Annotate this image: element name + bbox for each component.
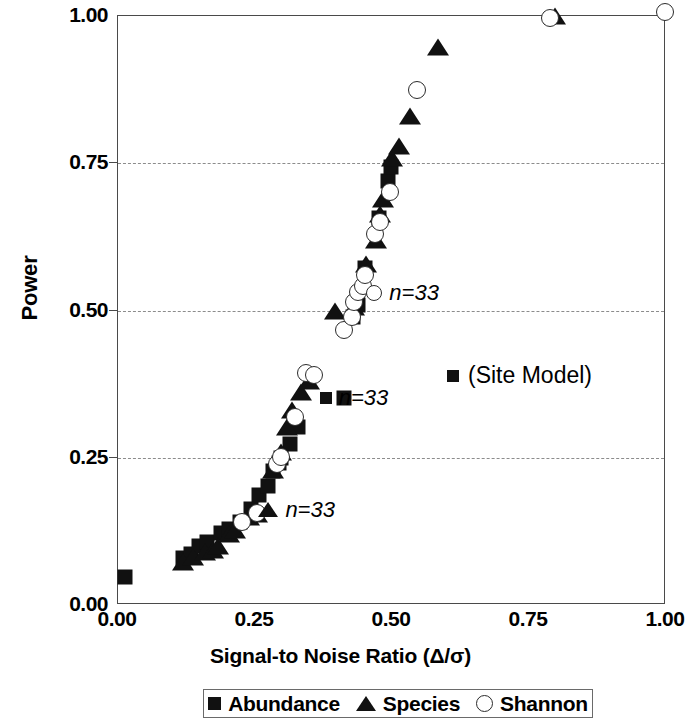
x-tick-label: 1.00 (610, 607, 689, 631)
square-marker-icon (320, 392, 332, 404)
legend: Abundance Species Shannon (203, 689, 593, 718)
x-tick-label: 0.00 (62, 607, 172, 631)
square-marker-icon (447, 370, 459, 382)
gridline-y (118, 311, 664, 312)
square-marker-icon (208, 697, 221, 710)
n-label-shannon: n=33 (366, 280, 439, 306)
y-tick-mark (109, 310, 117, 311)
data-point-species (399, 108, 421, 125)
site-model-annotation: (Site Model) (447, 362, 592, 389)
legend-label: Abundance (228, 692, 340, 716)
data-point-species (427, 39, 449, 56)
sample-size-label: n=33 (339, 385, 389, 411)
legend-label: Species (383, 692, 460, 716)
y-tick-label: 0.25 (40, 445, 108, 469)
gridline-y (118, 458, 664, 459)
data-point-shannon (541, 9, 559, 27)
legend-item-species[interactable]: Species (356, 692, 460, 716)
y-tick-mark (109, 457, 117, 458)
data-point-shannon (305, 366, 323, 384)
x-axis-title: Signal-to Noise Ratio (Δ/σ) (0, 644, 681, 668)
data-point-species (388, 137, 410, 154)
sample-size-label: n=33 (285, 497, 335, 523)
data-point-abundance (118, 570, 133, 585)
y-tick-label: 1.00 (40, 3, 108, 27)
circle-marker-icon (366, 285, 382, 301)
x-tick-label: 0.75 (473, 607, 583, 631)
data-point-shannon (381, 183, 399, 201)
data-point-shannon (656, 3, 674, 21)
site-model-text: (Site Model) (468, 362, 592, 389)
data-point-shannon (408, 81, 426, 99)
data-point-shannon (286, 408, 304, 426)
y-tick-label: 0.50 (40, 298, 108, 322)
n-label-species: n=33 (258, 497, 335, 523)
x-tick-label: 0.25 (199, 607, 309, 631)
data-point-shannon (272, 448, 290, 466)
y-tick-mark (109, 162, 117, 163)
y-tick-label: 0.75 (40, 150, 108, 174)
n-label-abundance: n=33 (320, 385, 389, 411)
data-point-shannon (371, 213, 389, 231)
legend-item-shannon[interactable]: Shannon (476, 692, 588, 716)
triangle-marker-icon (356, 696, 376, 711)
circle-marker-icon (476, 695, 493, 712)
legend-label: Shannon (500, 692, 588, 716)
data-point-abundance (260, 479, 275, 494)
triangle-marker-icon (258, 502, 278, 517)
plot-area (117, 15, 665, 604)
legend-item-abundance[interactable]: Abundance (208, 692, 340, 716)
sample-size-label: n=33 (389, 280, 439, 306)
x-tick-label: 0.50 (336, 607, 446, 631)
